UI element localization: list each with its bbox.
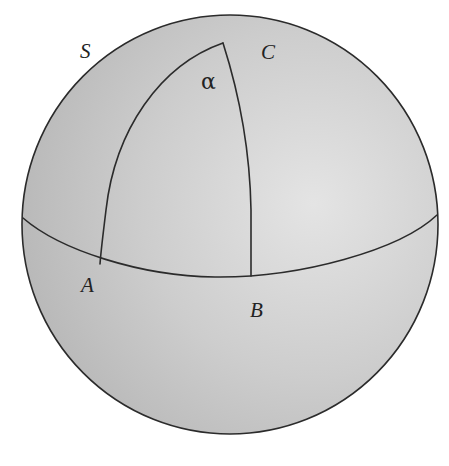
label-circle-c: C bbox=[261, 40, 276, 64]
label-point-a: A bbox=[79, 273, 94, 297]
label-point-b: B bbox=[250, 298, 263, 322]
sphere-diagram: S C α A B bbox=[0, 0, 449, 466]
sphere bbox=[22, 15, 438, 434]
label-angle-alpha: α bbox=[201, 69, 216, 94]
label-sphere-s: S bbox=[80, 39, 91, 63]
